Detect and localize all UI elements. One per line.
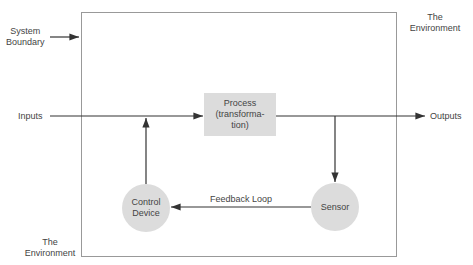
system-boundary-label: System Boundary: [6, 26, 45, 48]
node-line: Control: [131, 197, 160, 208]
node-line: Device: [131, 208, 160, 219]
label-line: System: [6, 26, 45, 37]
control-device-node: Control Device: [122, 184, 170, 232]
outputs-label: Outputs: [430, 111, 462, 122]
environment-label-bottom: The Environment: [22, 237, 78, 259]
process-node: Process (transforma- tion): [204, 93, 276, 136]
feedback-loop-label: Feedback Loop: [210, 194, 272, 205]
label-line: Environment: [22, 248, 78, 259]
environment-label-top: The Environment: [400, 12, 470, 34]
node-line: (transforma-: [215, 109, 264, 120]
node-line: tion): [215, 120, 264, 131]
label-line: The: [22, 237, 78, 248]
label-line: The: [400, 12, 470, 23]
node-line: Process: [215, 98, 264, 109]
inputs-label: Inputs: [18, 111, 43, 122]
node-line: Sensor: [321, 202, 350, 213]
label-line: Boundary: [6, 37, 45, 48]
label-line: Environment: [400, 23, 470, 34]
sensor-node: Sensor: [311, 183, 359, 231]
